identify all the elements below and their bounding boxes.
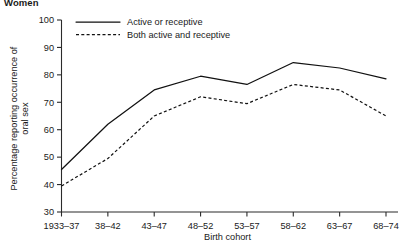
x-tick-label-group: 1933–3738–4243–4748–5253–5758–6263–6768–…: [44, 221, 399, 231]
x-tick-label: 58–62: [281, 221, 307, 231]
panel-title: Women: [4, 0, 39, 8]
x-tick-label: 68–74: [373, 221, 399, 231]
legend-label: Both active and receptive: [127, 30, 230, 40]
y-axis-title-line1: Percentage reporting occurrence of: [9, 47, 19, 191]
y-tick-label: 70: [44, 98, 54, 108]
y-tick-label: 90: [44, 43, 54, 53]
series-line-dashed: [62, 84, 387, 185]
x-tick-label: 1933–37: [44, 221, 80, 231]
data-series-group: [62, 63, 387, 186]
y-axis-title-line2: oral sex: [20, 29, 31, 209]
y-tick-label: 80: [44, 70, 54, 80]
y-tick-label: 50: [44, 152, 54, 162]
x-tick-label: 53–57: [234, 221, 260, 231]
legend-label: Active or receptive: [127, 17, 203, 27]
x-tick-label: 48–52: [188, 221, 214, 231]
y-tick-label-group: 30405060708090100: [39, 15, 54, 217]
series-line-solid: [62, 63, 387, 170]
y-tick-label: 100: [39, 15, 54, 25]
x-axis-title: Birth cohort: [55, 232, 400, 242]
x-tick-label: 43–47: [141, 221, 167, 231]
y-tick-label: 40: [44, 180, 54, 190]
y-tick-label: 60: [44, 125, 54, 135]
chart-figure: Women Percentage reporting occurrence of…: [0, 0, 403, 248]
y-axis-title: Percentage reporting occurrence of oral …: [9, 29, 30, 209]
chart-legend: Active or receptiveBoth active and recep…: [76, 17, 230, 40]
plot-area: 30405060708090100 1933–3738–4243–4748–52…: [0, 0, 403, 248]
y-tick-mark-group: [57, 20, 62, 212]
x-tick-mark-group: [62, 212, 387, 217]
x-tick-label: 63–67: [327, 221, 353, 231]
x-tick-label: 38–42: [95, 221, 121, 231]
y-tick-label: 30: [44, 207, 54, 217]
